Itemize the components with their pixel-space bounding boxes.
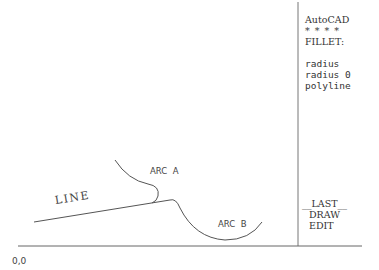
screen-menu-footer: __LAST__ DRAW EDIT <box>302 198 347 231</box>
menu-last[interactable]: __LAST__ <box>302 198 347 209</box>
menu-command-fillet[interactable]: FILLET: <box>305 36 351 47</box>
menu-option-polyline[interactable]: polyline <box>305 80 351 91</box>
menu-option-radius-0[interactable]: radius 0 <box>305 69 351 80</box>
menu-option-radius[interactable]: radius <box>305 58 351 69</box>
menu-separator[interactable]: * * * * <box>305 25 351 36</box>
line-entity[interactable] <box>34 200 170 222</box>
menu-draw[interactable]: DRAW <box>302 209 347 220</box>
fillet-arc-entity[interactable] <box>170 200 180 208</box>
origin-label: 0,0 <box>12 256 26 266</box>
screen-menu: AutoCAD * * * * FILLET: radius radius 0 … <box>305 14 351 91</box>
menu-edit[interactable]: EDIT <box>302 220 347 231</box>
arc-a-label: ARC A <box>150 166 178 176</box>
menu-title[interactable]: AutoCAD <box>305 14 351 25</box>
arc-b-label: ARC B <box>218 219 246 229</box>
